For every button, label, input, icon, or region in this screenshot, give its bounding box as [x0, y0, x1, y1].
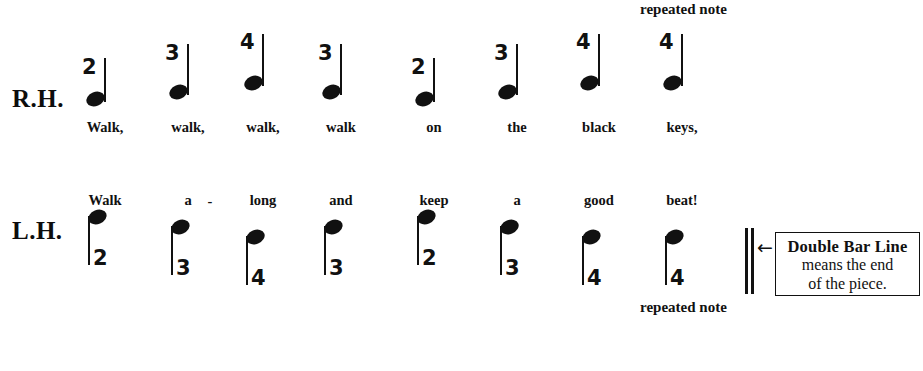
right-hand-label: R.H. [12, 86, 64, 111]
finger-number: 2 [93, 248, 108, 269]
double-bar-line-callout: Double Bar Line means the end of the pie… [775, 232, 920, 296]
finger-number: 3 [494, 43, 509, 64]
note-right-hand-1[interactable]: 2 [82, 50, 128, 170]
finger-number: 2 [411, 57, 426, 78]
note-left-hand-2[interactable]: 3 [165, 220, 211, 340]
note-left-hand-5[interactable]: 2 [411, 210, 457, 330]
note-stem-icon [340, 44, 342, 95]
finger-number: 3 [318, 43, 333, 64]
note-stem-icon [582, 236, 584, 285]
finger-number: 3 [165, 43, 180, 64]
bar-line-stroke-1 [745, 228, 748, 294]
note-stem-icon [433, 58, 435, 102]
note-stem-icon [88, 216, 90, 265]
lyric-left-hand-8: beat! [632, 193, 732, 208]
note-stem-icon [516, 44, 518, 95]
finger-number: 3 [329, 258, 344, 279]
note-stem-icon [262, 34, 264, 86]
note-stem-icon [187, 44, 189, 95]
left-arrow-icon: ← [757, 238, 773, 257]
note-stem-icon [104, 58, 106, 102]
note-right-hand-4[interactable]: 3 [318, 38, 364, 158]
bar-line-stroke-2 [751, 228, 754, 294]
note-left-hand-1[interactable]: 2 [82, 210, 128, 330]
lyric-right-hand-8: keys, [632, 120, 732, 135]
note-stem-icon [246, 236, 248, 285]
left-hand-label: L.H. [12, 218, 63, 243]
note-right-hand-2[interactable]: 3 [165, 38, 211, 158]
note-stem-icon [665, 236, 667, 285]
finger-number: 4 [659, 32, 674, 53]
note-stem-icon [598, 34, 600, 86]
notation-diagram: R.H. repeated note 2 Walk, 3 walk, 4 wal… [0, 0, 923, 371]
note-left-hand-3[interactable]: 4 [240, 230, 286, 350]
note-stem-icon [417, 216, 419, 265]
note-stem-icon [324, 226, 326, 275]
note-left-hand-4[interactable]: 3 [318, 220, 364, 340]
finger-number: 3 [505, 258, 520, 279]
lyric-left-hand-4: and [291, 193, 391, 208]
note-right-hand-5[interactable]: 2 [411, 50, 457, 170]
note-left-hand-7[interactable]: 4 [576, 230, 622, 350]
note-stem-icon [500, 226, 502, 275]
note-stem-icon [171, 226, 173, 275]
callout-text-line-2: means the end [776, 256, 919, 275]
note-left-hand-6[interactable]: 3 [494, 220, 540, 340]
callout-title: Double Bar Line [776, 237, 919, 256]
finger-number: 2 [82, 57, 97, 78]
finger-number: 4 [576, 32, 591, 53]
finger-number: 4 [240, 32, 255, 53]
lyric-right-hand-4: walk [291, 120, 391, 135]
finger-number: 4 [251, 268, 266, 289]
note-right-hand-6[interactable]: 3 [494, 38, 540, 158]
finger-number: 2 [422, 248, 437, 269]
note-stem-icon [681, 34, 683, 86]
annotation-repeated-note-right-hand: repeated note [640, 2, 727, 17]
callout-text-line-3: of the piece. [776, 275, 919, 294]
finger-number: 4 [670, 268, 685, 289]
note-left-hand-8[interactable]: 4 [659, 230, 705, 350]
finger-number: 4 [587, 268, 602, 289]
finger-number: 3 [176, 258, 191, 279]
